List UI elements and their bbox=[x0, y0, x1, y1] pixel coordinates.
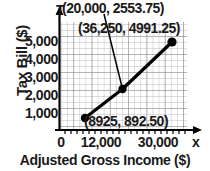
x-tick-0: 0 bbox=[57, 134, 64, 150]
y-axis-tick-labels: 5,000 4,000 3,000 2,000 1,000 bbox=[3, 0, 58, 140]
annotation-point-36250: (36,250, 4991.25) bbox=[78, 20, 180, 36]
annotation-point-20000: (20,000, 2553.75) bbox=[62, 0, 164, 16]
x-axis-name: x bbox=[192, 134, 200, 150]
y-axis-title: Tax Bill ($) bbox=[13, 13, 30, 109]
x-axis-title: Adjusted Gross Income ($) bbox=[0, 152, 210, 168]
x-tick-12000: 12,000 bbox=[81, 134, 121, 150]
x-tick-30000: 30,000 bbox=[138, 134, 178, 150]
chart-figure: 5,000 4,000 3,000 2,000 1,000 0 12,000 3… bbox=[0, 0, 210, 171]
annotation-point-8925: (8925, 892.50) bbox=[84, 113, 168, 129]
